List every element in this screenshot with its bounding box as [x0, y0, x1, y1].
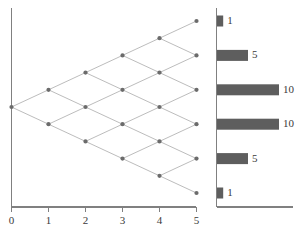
lattice-edges	[12, 21, 197, 193]
lattice-edge	[86, 73, 123, 90]
lattice-x-tick-labels: 0 1 2 3 4 5	[9, 214, 200, 226]
lattice-edge	[86, 55, 123, 72]
lattice-edge	[160, 55, 197, 72]
lattice-node	[194, 19, 198, 23]
x-tick-label-4: 4	[157, 214, 163, 226]
x-tick-label-3: 3	[120, 214, 126, 226]
lattice-edge	[123, 107, 160, 124]
lattice-edge	[160, 107, 197, 124]
lattice-edge	[49, 107, 86, 124]
bar-10	[217, 84, 279, 95]
lattice-node	[157, 174, 161, 178]
lattice-edge	[160, 90, 197, 107]
lattice-edge	[86, 124, 123, 141]
lattice-node	[157, 71, 161, 75]
lattice-node	[83, 71, 87, 75]
x-tick-label-2: 2	[83, 214, 89, 226]
bar-chart-panel: 15101051	[217, 8, 295, 207]
lattice-nodes	[9, 19, 198, 195]
bar-label: 1	[227, 186, 233, 198]
bar-1	[217, 188, 223, 199]
lattice-node	[194, 53, 198, 57]
lattice-x-ticks	[12, 207, 197, 212]
bar-label: 10	[283, 117, 295, 129]
lattice-edge	[49, 90, 86, 107]
bar-value-labels: 15101051	[227, 14, 294, 198]
lattice-edge	[160, 38, 197, 55]
lattice-edge	[160, 159, 197, 176]
lattice-panel: 0 1 2 3 4 5	[9, 8, 200, 226]
lattice-edge	[160, 176, 197, 193]
lattice-node	[194, 157, 198, 161]
lattice-edge	[86, 141, 123, 158]
bar-label: 5	[252, 152, 258, 164]
figure-root: 0 1 2 3 4 5 15101051	[0, 0, 295, 236]
lattice-edge	[12, 90, 49, 107]
x-tick-label-0: 0	[9, 214, 15, 226]
lattice-node	[194, 88, 198, 92]
bar-5	[217, 50, 248, 61]
lattice-edge	[160, 21, 197, 38]
lattice-edge	[160, 124, 197, 141]
lattice-edge	[86, 107, 123, 124]
lattice-edge	[123, 159, 160, 176]
lattice-edge	[123, 73, 160, 90]
lattice-node	[9, 105, 13, 109]
lattice-edge	[123, 38, 160, 55]
lattice-edge	[123, 90, 160, 107]
lattice-node	[46, 88, 50, 92]
bar-label: 5	[252, 48, 258, 60]
lattice-edge	[86, 90, 123, 107]
bar-label: 1	[227, 14, 233, 26]
bar-1	[217, 16, 223, 27]
lattice-node	[194, 122, 198, 126]
lattice-node	[83, 105, 87, 109]
lattice-node	[120, 122, 124, 126]
bar-5	[217, 153, 248, 164]
lattice-node	[157, 139, 161, 143]
x-tick-label-1: 1	[46, 214, 52, 226]
bar-label: 10	[283, 83, 295, 95]
lattice-node	[194, 191, 198, 195]
bar-10	[217, 119, 279, 130]
lattice-edge	[123, 141, 160, 158]
lattice-edge	[123, 124, 160, 141]
lattice-node	[46, 122, 50, 126]
lattice-node	[157, 105, 161, 109]
x-tick-label-5: 5	[194, 214, 200, 226]
lattice-edge	[49, 73, 86, 90]
lattice-node	[120, 157, 124, 161]
lattice-edge	[160, 73, 197, 90]
lattice-edge	[123, 55, 160, 72]
lattice-node	[83, 139, 87, 143]
lattice-edge	[12, 107, 49, 124]
lattice-node	[157, 36, 161, 40]
figure-canvas: 0 1 2 3 4 5 15101051	[0, 0, 295, 236]
lattice-node	[120, 53, 124, 57]
lattice-edge	[160, 141, 197, 158]
lattice-edge	[49, 124, 86, 141]
lattice-node	[120, 88, 124, 92]
bar-series	[217, 16, 279, 199]
